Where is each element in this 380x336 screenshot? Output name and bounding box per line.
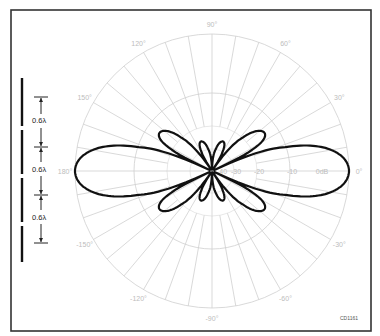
- angle-label: -120°: [130, 295, 147, 302]
- db-label: -20: [254, 168, 264, 175]
- angle-label: -30°: [333, 241, 346, 248]
- angle-label: 30°: [334, 94, 345, 101]
- angle-label: -60°: [279, 295, 292, 302]
- polar-grid: [75, 34, 349, 308]
- angle-label: -150°: [76, 241, 93, 248]
- angle-label: 0°: [356, 168, 363, 175]
- spacing-label-3: 0.6λ: [32, 213, 46, 222]
- figure-code: CD1161: [340, 315, 358, 321]
- spacing-label-1: 0.6λ: [32, 116, 46, 125]
- radiation-pattern-figure: 90°60°30°0°-30°-60°-90°-120°-150°180°150…: [0, 0, 380, 336]
- angle-label: 180°: [58, 168, 73, 175]
- angle-label: -90°: [206, 315, 219, 322]
- spacing-label-2: 0.6λ: [32, 165, 46, 174]
- angle-label: 120°: [131, 40, 146, 47]
- db-label: -10: [287, 168, 297, 175]
- angle-label: 60°: [280, 40, 291, 47]
- angle-label: 150°: [77, 94, 92, 101]
- spacing-dimensions: 0.6λ 0.6λ 0.6λ: [32, 97, 48, 243]
- db-label: 0dB: [316, 168, 329, 175]
- db-label: -30: [231, 168, 241, 175]
- angle-label: 90°: [207, 21, 218, 28]
